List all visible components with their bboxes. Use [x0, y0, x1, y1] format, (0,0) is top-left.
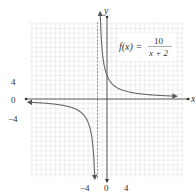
x-tick-neg4: −4	[80, 183, 90, 193]
equation-lhs: f(x) =	[119, 41, 142, 53]
equation-denominator: x + 2	[148, 48, 169, 58]
function-graph: y x 4 0 −4 −4 0 4 f(x) = 10 x + 2	[0, 0, 195, 195]
curve-left-branch	[29, 102, 94, 177]
x-axis-left-dot	[25, 98, 28, 101]
x-tick-4: 4	[124, 183, 129, 193]
x-axis-right-dot	[187, 98, 190, 101]
y-axis-label: y	[103, 5, 109, 16]
y-tick-4: 4	[11, 77, 16, 87]
y-tick-neg4: −4	[8, 114, 18, 124]
y-tick-0: 0	[11, 95, 16, 105]
x-tick-0: 0	[104, 183, 109, 193]
x-axis-label: x	[190, 93, 195, 104]
y-axis-top-dot	[106, 16, 109, 19]
equation-numerator: 10	[154, 36, 164, 46]
